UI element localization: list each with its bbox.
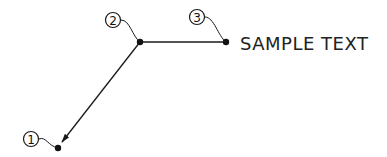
leader-segment-2-to-1 — [62, 42, 140, 142]
marker-3: 3 — [190, 10, 205, 25]
marker-1: 1 — [24, 132, 39, 147]
marker-3-connector — [205, 17, 226, 42]
marker-1-label: 1 — [27, 133, 35, 147]
marker-2-label: 2 — [109, 14, 117, 28]
marker-2-connector — [121, 20, 140, 42]
marker-3-label: 3 — [193, 11, 201, 25]
leader-diagram: 1 2 3 SAMPLE TEXT — [0, 0, 387, 157]
marker-2: 2 — [106, 13, 121, 28]
marker-1-connector — [39, 138, 58, 148]
sample-text: SAMPLE TEXT — [240, 33, 369, 54]
